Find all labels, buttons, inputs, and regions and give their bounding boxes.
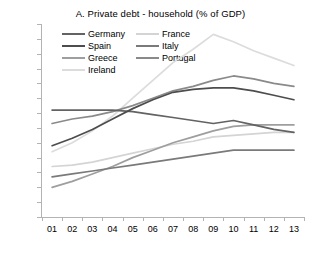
x-tick-label: 12	[264, 224, 284, 234]
x-tick-mark	[123, 217, 124, 221]
chart-title: A. Private debt - household (% of GDP)	[0, 8, 321, 19]
y-tick-mark	[37, 128, 41, 129]
x-tick-label: 10	[223, 224, 243, 234]
y-tick-mark	[37, 187, 41, 188]
y-tick-mark	[37, 69, 41, 70]
chart-plot-area	[42, 24, 304, 217]
x-tick-mark	[42, 217, 43, 221]
y-tick-mark	[37, 24, 41, 25]
series-line-italy	[52, 150, 294, 177]
y-tick-mark	[37, 217, 41, 218]
y-tick-mark	[37, 158, 41, 159]
y-tick-mark	[37, 98, 41, 99]
x-tick-mark	[304, 217, 305, 221]
x-tick-mark	[143, 217, 144, 221]
x-tick-label: 01	[42, 224, 62, 234]
x-tick-mark	[244, 217, 245, 221]
y-tick-mark	[37, 54, 41, 55]
x-tick-label: 03	[82, 224, 102, 234]
x-tick-mark	[62, 217, 63, 221]
x-tick-label: 08	[183, 224, 203, 234]
x-tick-mark	[203, 217, 204, 221]
y-tick-mark	[37, 113, 41, 114]
x-tick-label: 05	[123, 224, 143, 234]
x-tick-label: 02	[62, 224, 82, 234]
y-tick-mark	[37, 143, 41, 144]
x-tick-label: 04	[103, 224, 123, 234]
x-tick-mark	[82, 217, 83, 221]
y-tick-mark	[37, 83, 41, 84]
x-tick-mark	[223, 217, 224, 221]
y-tick-mark	[37, 39, 41, 40]
x-tick-label: 11	[244, 224, 264, 234]
x-tick-label: 09	[203, 224, 223, 234]
y-tick-mark	[37, 172, 41, 173]
y-tick-mark	[37, 202, 41, 203]
series-line-portugal	[52, 76, 294, 124]
x-tick-label: 13	[284, 224, 304, 234]
x-tick-mark	[102, 217, 103, 221]
x-tick-mark	[163, 217, 164, 221]
chart-container: A. Private debt - household (% of GDP) G…	[0, 0, 321, 257]
series-line-germany	[52, 110, 294, 132]
x-tick-label: 07	[163, 224, 183, 234]
x-tick-label: 06	[143, 224, 163, 234]
x-tick-mark	[264, 217, 265, 221]
x-tick-mark	[183, 217, 184, 221]
x-tick-mark	[284, 217, 285, 221]
